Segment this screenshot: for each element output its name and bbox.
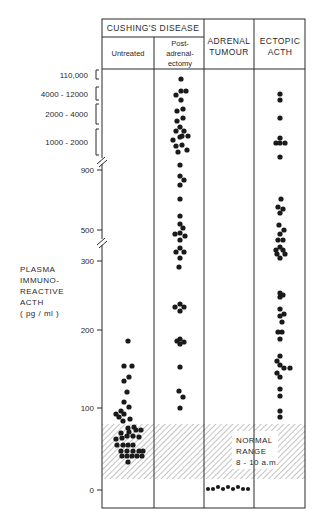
data-point (177, 173, 182, 178)
y-axis-label: PLASMA IMMUNO- REACTIVE ACTH ( pg / ml ) (20, 265, 64, 318)
data-point (134, 453, 139, 458)
data-point (178, 97, 183, 102)
data-point (179, 142, 184, 147)
data-point (118, 448, 123, 453)
data-point (231, 487, 235, 491)
svg-text:IMMUNO-: IMMUNO- (20, 276, 60, 285)
y-tick-label: 200 (81, 326, 95, 335)
data-point (180, 225, 185, 230)
data-point (177, 213, 182, 218)
normal-range-label-2: RANGE (236, 447, 266, 456)
range-bracket-label: 110,000 (60, 71, 89, 80)
data-point (119, 435, 124, 440)
data-point (125, 442, 130, 447)
data-point (277, 306, 282, 311)
y-range-brackets: 110,0004000 - 120002000 - 40001000 - 200… (41, 70, 99, 155)
data-point (118, 408, 123, 413)
data-point (138, 427, 143, 432)
data-point (277, 231, 282, 236)
data-point (241, 487, 245, 491)
data-point (116, 414, 121, 419)
data-point (182, 233, 187, 238)
range-bracket-label: 1000 - 2000 (45, 138, 88, 147)
data-point (279, 329, 284, 334)
y-tick-label: 500 (81, 226, 95, 235)
data-point (181, 177, 186, 182)
data-point (177, 255, 182, 260)
data-point (126, 404, 131, 409)
data-point (281, 227, 286, 232)
data-point (180, 115, 185, 120)
y-axis-ticks: 0100200300500900 (81, 166, 102, 495)
data-point (216, 485, 220, 489)
data-point (277, 353, 282, 358)
data-point (129, 453, 134, 458)
data-point (173, 143, 178, 148)
data-point (177, 341, 182, 346)
data-point (130, 448, 135, 453)
data-point (178, 76, 183, 81)
data-point (277, 393, 282, 398)
data-point (120, 442, 125, 447)
data-point (277, 210, 282, 215)
data-point (281, 365, 286, 370)
data-point (124, 433, 129, 438)
data-point (277, 255, 282, 260)
data-point (181, 128, 186, 133)
data-point (277, 91, 282, 96)
range-bracket-label: 4000 - 12000 (41, 90, 89, 99)
data-point (125, 459, 130, 464)
data-point (172, 231, 177, 236)
data-point (277, 408, 282, 413)
data-point (277, 414, 282, 419)
data-point (113, 436, 118, 441)
data-point (175, 149, 180, 154)
data-point (174, 108, 179, 113)
data-point (133, 427, 138, 432)
data-point (125, 338, 130, 343)
data-point (246, 487, 250, 491)
data-point (277, 313, 282, 318)
data-point (277, 154, 282, 159)
y-tick-label: 300 (81, 257, 95, 266)
data-point (177, 405, 182, 410)
data-point (275, 237, 280, 242)
data-point (183, 88, 188, 93)
data-point (130, 433, 135, 438)
acth-scatter-chart: NORMAL RANGE 8 - 10 a.m. CUSHING'S DISEA… (0, 0, 321, 521)
data-point (119, 453, 124, 458)
range-bracket-label: 2000 - 4000 (45, 110, 88, 119)
data-point (277, 115, 282, 120)
data-point (176, 388, 181, 393)
data-point (184, 147, 189, 152)
header-post-1: Post- (171, 39, 189, 48)
data-point (124, 453, 129, 458)
data-point (118, 430, 123, 435)
data-point (177, 308, 182, 313)
header-post-3: ectomy (168, 59, 192, 68)
data-point (121, 378, 126, 383)
data-point (177, 364, 182, 369)
series-ectopic-acth (273, 91, 292, 419)
data-point (130, 442, 135, 447)
svg-text:REACTIVE: REACTIVE (20, 287, 64, 296)
data-point (279, 319, 284, 324)
range-bracket (96, 70, 99, 79)
data-point (211, 487, 215, 491)
data-point (277, 386, 282, 391)
series-post-adrenalectomy (170, 76, 190, 410)
data-point (282, 251, 287, 256)
data-point (282, 140, 287, 145)
header-adrenal-2: TUMOUR (209, 47, 249, 57)
data-point (181, 304, 186, 309)
y-tick-label: 900 (81, 166, 95, 175)
data-point (277, 336, 282, 341)
data-point (124, 448, 129, 453)
range-bracket (96, 129, 99, 155)
data-point (178, 88, 183, 93)
data-point (176, 264, 181, 269)
data-point (287, 365, 292, 370)
data-point (177, 196, 182, 201)
series-adrenal-tumour (206, 485, 250, 491)
data-point (177, 230, 182, 235)
